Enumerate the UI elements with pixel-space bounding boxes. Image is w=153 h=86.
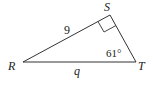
triangle-diagram: S R T 9 q 61°: [0, 0, 153, 86]
vertex-label-S: S: [104, 0, 110, 14]
vertex-label-T: T: [138, 59, 146, 73]
right-angle-marker: [98, 22, 116, 33]
side-label-RT: q: [74, 64, 80, 78]
side-label-RS: 9: [64, 23, 70, 37]
angle-label-T: 61°: [106, 47, 121, 59]
vertex-label-R: R: [7, 59, 16, 73]
